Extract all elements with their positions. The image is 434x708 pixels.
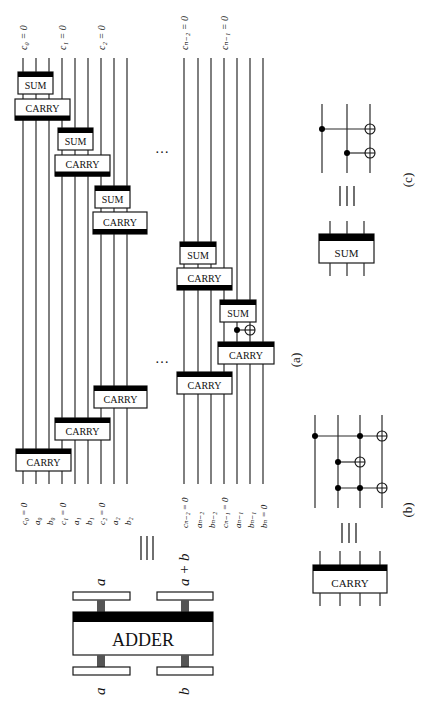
bottom-label: c₁ = 0 (58, 502, 68, 525)
bottom-label: cₙ₋₁ = 0 (220, 497, 230, 528)
carry-block-label: CARRY (103, 217, 137, 228)
equiv-symbol-c (340, 186, 354, 206)
bottom-label: b₁ (84, 517, 94, 525)
control-dot-icon (335, 485, 341, 491)
ellipsis-bottom: … (155, 351, 169, 366)
equiv-symbol-b (342, 523, 356, 543)
control-dot-icon (312, 433, 318, 439)
carry-block-n-1: CARRY (218, 342, 274, 364)
bottom-label: bₙ₋₂ (207, 512, 217, 528)
bottom-label: bₙ₋₁ (246, 512, 256, 528)
bottom-label: b₂ (123, 517, 133, 525)
top-label-c2: c₂ = 0 (96, 25, 107, 50)
carry-block-label: CARRY (188, 273, 222, 284)
bottom-label: c₀ = 0 (19, 502, 29, 525)
carry-block-label: CARRY (26, 103, 60, 114)
control-dot-icon (357, 485, 363, 491)
panel-c-circuit (319, 104, 375, 173)
caption-c: (c) (400, 173, 415, 187)
top-label-c1: c₁ = 0 (57, 25, 68, 50)
sum-block-n-2: SUM (180, 242, 216, 264)
bottom-label: bₙ = 0 (259, 504, 269, 528)
top-label-cn-2: cₙ₋₂ = 0 (179, 16, 190, 50)
carry-block-1: CARRY (55, 155, 110, 177)
bottom-label: aₙ₋₂ (194, 512, 204, 528)
control-dot-icon (335, 459, 341, 465)
panel-b-carry-block: CARRY (313, 551, 387, 606)
carry-block-reverse-0: CARRY (16, 449, 71, 471)
carry-block-reverse-2: CARRY (94, 386, 147, 408)
bottom-label: aₙ₋₁ (233, 512, 243, 528)
caption-a: (a) (288, 353, 303, 367)
carry-block-label: CARRY (27, 457, 61, 468)
ellipsis-top: … (155, 141, 169, 156)
adder-output-sum: a + b (176, 553, 192, 586)
adder-input-b: b (176, 687, 192, 695)
sum-block-label: SUM (187, 250, 209, 261)
carry-block-label: CARRY (188, 380, 222, 391)
control-dot-icon (319, 126, 325, 132)
carry-block-label: CARRY (66, 426, 100, 437)
adder-output-a: a (92, 579, 108, 587)
adder-block: ADDER (73, 592, 213, 675)
adder-input-a: a (92, 688, 108, 696)
carry-block-2: CARRY (93, 212, 147, 234)
control-dot-icon (234, 327, 240, 333)
quantum-adder-diagram: SUM CARRY SUM CARRY SUM CARRY SUM CARRY (0, 0, 434, 708)
carry-block-0: CARRY (15, 99, 70, 121)
carry-block-label: CARRY (229, 350, 263, 361)
carry-block-n-2: CARRY (177, 268, 232, 290)
bottom-label: c₂ = 0 (97, 502, 107, 525)
sum-block-label: SUM (102, 194, 124, 205)
control-dot-icon (357, 433, 363, 439)
bottom-label: b₀ (45, 517, 55, 525)
bottom-label: a₀ (32, 517, 42, 525)
sum-block-2: SUM (95, 186, 130, 208)
panel-b-carry-label: CARRY (331, 577, 368, 589)
top-labels: c₀ = 0 c₁ = 0 c₂ = 0 cₙ₋₂ = 0 cₙ₋₁ = 0 (18, 16, 230, 50)
sum-block-0: SUM (18, 72, 53, 94)
carry-block-reverse-n-2: CARRY (177, 372, 232, 394)
equiv-symbol-a (141, 536, 153, 560)
top-label-c0: c₀ = 0 (18, 25, 29, 50)
bottom-label: cₙ₋₂ = 0 (180, 497, 190, 528)
carry-block-label: CARRY (104, 394, 138, 405)
bottom-label: a₂ (110, 517, 120, 525)
sum-block-1: SUM (58, 128, 93, 150)
bottom-label: a₁ (71, 517, 81, 525)
sum-block-label: SUM (65, 136, 87, 147)
sum-block-n-1: SUM (220, 300, 256, 322)
carry-block-reverse-1: CARRY (55, 418, 110, 440)
control-dot-icon (344, 150, 350, 156)
panel-c-sum-label: SUM (335, 247, 359, 259)
panel-c-sum-block: SUM (319, 221, 374, 276)
bottom-labels: c₀ = 0 a₀ b₀ c₁ = 0 a₁ b₁ c₂ = 0 a₂ b₂ c… (19, 497, 269, 528)
caption-b: (b) (400, 502, 415, 517)
carry-block-label: CARRY (66, 159, 100, 170)
sum-block-label: SUM (227, 308, 249, 319)
top-label-cn-1: cₙ₋₁ = 0 (219, 16, 230, 50)
sum-block-label: SUM (25, 80, 47, 91)
panel-b-circuit (312, 415, 387, 508)
adder-label: ADDER (112, 630, 174, 650)
